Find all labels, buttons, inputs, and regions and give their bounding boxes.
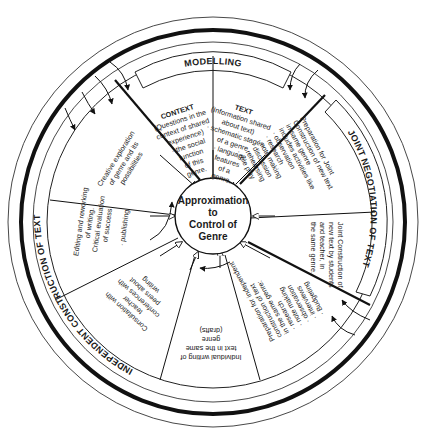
hub-line-3: Control of [189, 219, 237, 230]
segment-consultation: Consultation with teacher conferences wi… [103, 263, 174, 333]
svg-text:and teacher, in: and teacher, in [318, 222, 327, 269]
svg-text:the same genre.: the same genre. [309, 222, 318, 274]
segment-editing: Editing and reworking of writing. Critic… [71, 187, 133, 263]
svg-text:new text by students: new text by students [327, 222, 336, 288]
svg-text:text in the same: text in the same [186, 344, 237, 353]
hub-line-4: Genre [199, 231, 228, 242]
hub-line-1: Approximation [178, 195, 249, 206]
stage-joint-label: JOINT NEGOTIATION OF TEXT [346, 128, 379, 269]
segment-creative: Creative exploration of genre and its po… [95, 129, 152, 198]
svg-text:genre: genre [202, 335, 220, 344]
svg-text:Individual writing of: Individual writing of [180, 353, 241, 362]
segment-joint-construction: Joint Construction of new text by studen… [309, 222, 345, 288]
hub-line-2: to [208, 207, 217, 218]
svg-text:· publishing: · publishing [117, 209, 131, 247]
svg-text:(drafts): (drafts) [200, 326, 223, 335]
segment-individual-writing: Individual writing of text in the same g… [180, 326, 241, 362]
teaching-learning-cycle-diagram: Approximation to Control of Genre MODELL… [0, 0, 426, 445]
svg-text:Joint Construction of: Joint Construction of [336, 222, 345, 288]
